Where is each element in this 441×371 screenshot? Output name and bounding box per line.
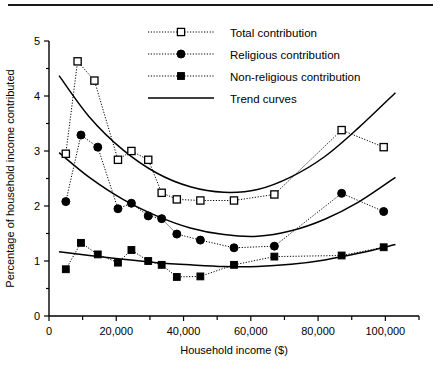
data-point-marker — [127, 199, 135, 207]
x-tick-label: 20,000 — [99, 325, 133, 337]
data-point-marker — [158, 215, 166, 223]
data-point-marker — [196, 236, 204, 244]
data-point-marker — [231, 261, 238, 268]
x-axis-title: Household income ($) — [180, 344, 288, 356]
data-point-marker — [271, 253, 278, 260]
data-point-marker — [270, 242, 278, 250]
data-point-marker — [338, 127, 345, 134]
data-point-marker — [128, 247, 135, 254]
y-tick-label: 3 — [34, 145, 40, 157]
data-point-marker — [144, 212, 152, 220]
data-point-marker — [74, 58, 81, 65]
x-tick-label: 40,000 — [167, 325, 201, 337]
data-point-marker — [128, 147, 135, 154]
data-point-marker — [77, 131, 85, 139]
legend-label: Religious contribution — [230, 49, 340, 61]
data-point-marker — [230, 197, 237, 204]
y-tick-label: 1 — [34, 255, 40, 267]
data-point-marker — [230, 244, 238, 252]
data-point-marker — [158, 189, 165, 196]
series-line — [66, 135, 384, 248]
data-point-marker — [197, 273, 204, 280]
data-point-marker — [145, 156, 152, 163]
x-tick-label: 0 — [46, 325, 52, 337]
y-tick-label: 2 — [34, 200, 40, 212]
legend-sample-marker — [177, 28, 184, 35]
data-point-marker — [338, 252, 345, 259]
data-point-marker — [145, 258, 152, 265]
data-point-marker — [197, 197, 204, 204]
data-point-marker — [115, 259, 122, 266]
data-point-marker — [62, 198, 70, 206]
data-point-marker — [338, 189, 346, 197]
series-line — [66, 243, 384, 277]
data-point-marker — [271, 191, 278, 198]
data-point-marker — [158, 261, 165, 268]
data-point-marker — [78, 239, 85, 246]
data-point-marker — [91, 77, 98, 84]
y-tick-label: 0 — [34, 310, 40, 322]
legend-label: Trend curves — [230, 93, 297, 105]
data-point-marker — [94, 143, 102, 151]
data-point-marker — [94, 251, 101, 258]
legend-sample-marker — [178, 73, 185, 80]
data-point-marker — [62, 150, 69, 157]
legend-label: Total contribution — [230, 27, 317, 39]
x-tick-label: 100,000 — [365, 325, 405, 337]
x-tick-label: 60,000 — [234, 325, 268, 337]
chart-canvas: 012345020,00040,00060,00080,000100,000Ho… — [0, 0, 441, 371]
data-point-marker — [173, 274, 180, 281]
data-point-marker — [380, 244, 387, 251]
legend-label: Non-religious contribution — [230, 71, 360, 83]
data-point-marker — [62, 266, 69, 273]
y-tick-label: 5 — [34, 35, 40, 47]
data-point-marker — [380, 144, 387, 151]
data-point-marker — [173, 230, 181, 238]
data-point-marker — [380, 208, 388, 216]
x-tick-label: 80,000 — [301, 325, 335, 337]
data-point-marker — [114, 205, 122, 213]
chart-figure: 012345020,00040,00060,00080,000100,000Ho… — [0, 0, 441, 371]
legend-sample-marker — [177, 50, 185, 58]
data-point-marker — [173, 196, 180, 203]
y-tick-label: 4 — [34, 90, 40, 102]
data-point-marker — [114, 156, 121, 163]
y-axis-title: Percentage of household income contribut… — [4, 69, 16, 287]
